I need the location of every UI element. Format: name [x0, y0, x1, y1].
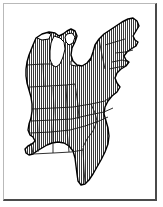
map-canvas[interactable] [9, 9, 152, 195]
screenshot-root: Eastern United States Eastern United Sta… [0, 0, 163, 207]
eastern-us-map-svg[interactable] [9, 9, 152, 195]
